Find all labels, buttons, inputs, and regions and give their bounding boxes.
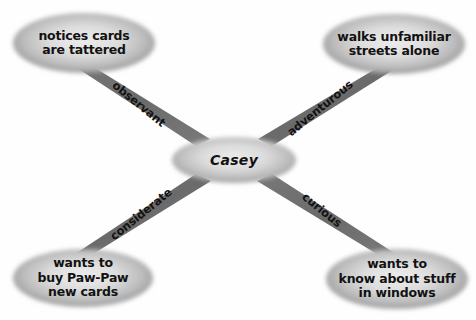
node-ellipse-bottom-right[interactable] xyxy=(326,249,468,309)
band-adventurous xyxy=(258,62,404,146)
band-considerate xyxy=(69,174,211,259)
diagram-canvas: notices cards are tattered walks unfamil… xyxy=(0,0,476,320)
node-ellipses xyxy=(13,13,468,309)
node-ellipse-center[interactable] xyxy=(172,137,296,183)
node-ellipse-top-right[interactable] xyxy=(323,14,465,74)
diagram-shapes-layer xyxy=(0,0,476,320)
band-observant xyxy=(68,61,210,146)
node-ellipse-bottom-left[interactable] xyxy=(13,249,153,307)
band-curious xyxy=(257,174,402,259)
node-ellipse-top-left[interactable] xyxy=(13,13,155,73)
